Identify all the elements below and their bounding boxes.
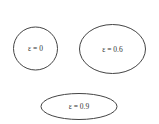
ellipse-e09: ε = 0.9 [41,94,117,120]
label-e06: ε = 0.6 [102,45,123,54]
ellipse-e0: ε = 0 [14,27,58,70]
label-e09: ε = 0.9 [69,102,90,111]
eccentricity-diagram: ε = 0 ε = 0.6 ε = 0.9 [0,0,159,124]
ellipse-e06: ε = 0.6 [80,25,146,74]
label-e0: ε = 0 [28,44,43,53]
